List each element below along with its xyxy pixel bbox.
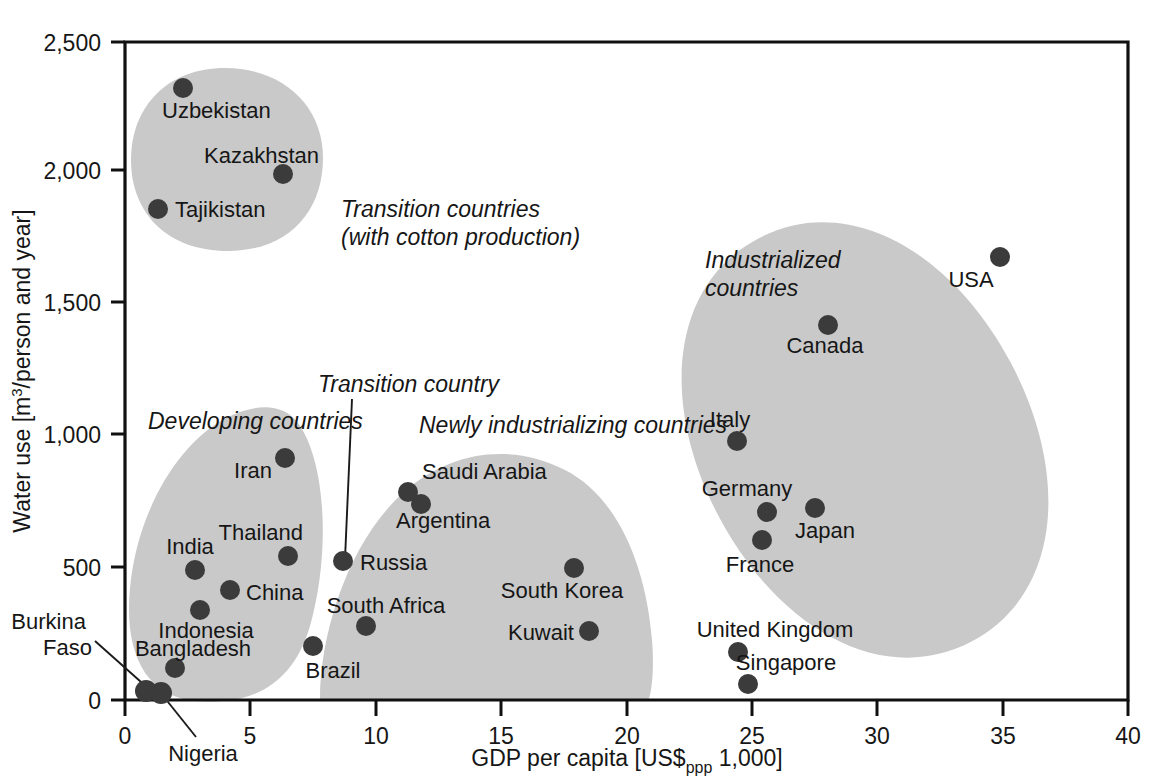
x-tick-label-35: 35 [990, 723, 1016, 749]
data-point-china[interactable] [220, 580, 240, 600]
data-point-nigeria[interactable] [150, 682, 172, 704]
point-label-singapore: Singapore [736, 650, 836, 675]
point-label-uzbekistan: Uzbekistan [162, 98, 271, 123]
y-tick-label-1500: 1,500 [43, 290, 101, 316]
point-label-italy: Italy [710, 407, 750, 432]
point-label-saudi-arabia: Saudi Arabia [422, 459, 548, 484]
y-tick-label-2000: 2,000 [43, 158, 101, 184]
point-label-united-kingdom: United Kingdom [697, 617, 854, 642]
point-label-china: China [246, 580, 304, 605]
point-label-south-korea: South Korea [501, 578, 624, 603]
data-point-thailand[interactable] [278, 546, 298, 566]
y-axis-ticks [111, 42, 125, 700]
y-tick-label-0: 0 [88, 688, 101, 714]
data-point-bangladesh[interactable] [165, 658, 185, 678]
point-label-kuwait: Kuwait [508, 620, 574, 645]
y-tick-label-1000: 1,000 [43, 422, 101, 448]
group-label-newly-industrializing: Newly industrializing countries [419, 412, 728, 438]
point-label-germany: Germany [702, 476, 792, 501]
y-tick-label-2500: 2,500 [43, 30, 101, 56]
data-point-italy[interactable] [727, 431, 747, 451]
data-point-south-korea[interactable] [564, 558, 584, 578]
point-label-bangladesh: Bangladesh [135, 636, 251, 661]
data-point-singapore[interactable] [738, 674, 758, 694]
point-label-japan: Japan [795, 518, 855, 543]
x-tick-label-10: 10 [363, 723, 389, 749]
data-point-usa[interactable] [990, 247, 1010, 267]
point-label-tajikistan: Tajikistan [175, 197, 265, 222]
y-tick-label-500: 500 [63, 555, 101, 581]
x-axis-title: GDP per capita [US$ppp 1,000] [471, 745, 782, 776]
data-point-russia[interactable] [333, 551, 353, 571]
cluster-newly-industrializing-blob [320, 454, 653, 700]
point-label-iran: Iran [234, 458, 272, 483]
chart-canvas: 0 500 1,000 1,500 2,000 2,500 0 5 10 15 … [0, 0, 1158, 776]
annotation-nigeria: Nigeria [168, 741, 238, 766]
data-point-brazil[interactable] [303, 636, 323, 656]
point-label-brazil: Brazil [305, 658, 360, 683]
annotation-burkina-faso: Burkina Faso [11, 609, 92, 660]
data-point-germany[interactable] [757, 502, 777, 522]
point-label-india: India [166, 534, 214, 559]
data-point-india[interactable] [185, 560, 205, 580]
point-label-south-africa: South Africa [327, 593, 446, 618]
data-point-japan[interactable] [805, 498, 825, 518]
y-axis-title: Water use [m3/person and year] [8, 209, 35, 532]
data-point-canada[interactable] [818, 315, 838, 335]
x-tick-label-40: 40 [1115, 723, 1141, 749]
x-axis-ticks [125, 700, 1128, 716]
point-label-russia: Russia [360, 550, 428, 575]
point-label-thailand: Thailand [219, 520, 303, 545]
annotation-transition-country: Transition country [318, 371, 501, 397]
water-use-gdp-scatter-chart: 0 500 1,000 1,500 2,000 2,500 0 5 10 15 … [0, 0, 1158, 776]
point-label-canada: Canada [786, 333, 864, 358]
cluster-industrialized-blob [612, 161, 1117, 719]
data-point-uzbekistan[interactable] [173, 78, 193, 98]
data-point-indonesia[interactable] [190, 600, 210, 620]
group-label-transition-cotton: Transition countries (with cotton produc… [341, 196, 580, 250]
data-point-iran[interactable] [275, 448, 295, 468]
data-point-tajikistan[interactable] [148, 199, 168, 219]
point-label-france: France [726, 552, 794, 577]
point-label-kazakhstan: Kazakhstan [204, 143, 319, 168]
data-point-south-africa[interactable] [356, 616, 376, 636]
data-point-france[interactable] [752, 530, 772, 550]
point-label-argentina: Argentina [396, 508, 491, 533]
point-label-usa: USA [948, 267, 994, 292]
x-tick-label-5: 5 [244, 723, 257, 749]
x-tick-label-30: 30 [864, 723, 890, 749]
x-tick-label-0: 0 [119, 723, 132, 749]
data-point-kuwait[interactable] [579, 621, 599, 641]
group-label-developing: Developing countries [148, 408, 363, 434]
